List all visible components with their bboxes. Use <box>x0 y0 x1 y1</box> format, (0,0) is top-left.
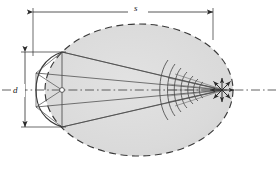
figure-canvas: s d <box>0 0 278 176</box>
focal-point <box>210 78 234 102</box>
beam-diagram-svg <box>0 0 278 176</box>
dimension-label-s: s <box>134 4 138 13</box>
source-point <box>60 88 65 93</box>
dimension-label-d: d <box>13 86 18 95</box>
